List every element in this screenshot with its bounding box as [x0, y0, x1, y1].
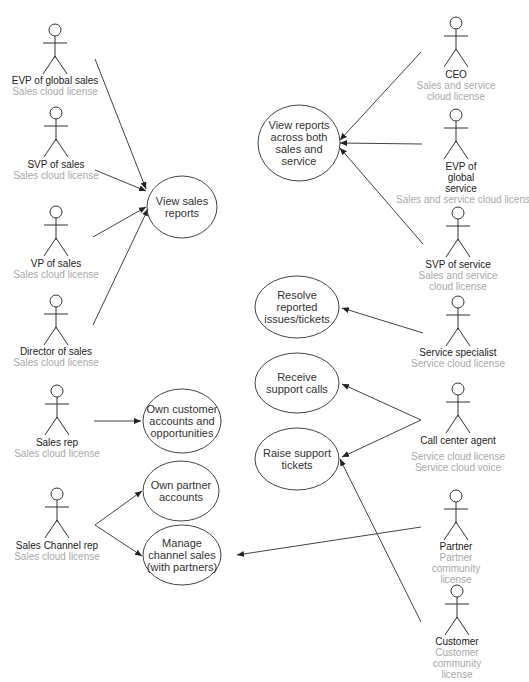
actor-license: Sales and service cloud license: [396, 194, 526, 205]
usecase-own-partner[interactable]: Own partner accounts: [147, 476, 215, 506]
actor-license: Sales cloud license: [7, 551, 107, 562]
assoc-vp-sales: [93, 207, 146, 237]
actor-evp-sales: EVP of global sales Sales cloud license: [5, 75, 105, 97]
actor-figure-customer[interactable]: [445, 585, 469, 635]
actor-license: Sales cloud license: [6, 170, 106, 181]
actor-customer: Customer Customer community license: [407, 636, 507, 680]
actor-figure-svp-sales[interactable]: [44, 107, 68, 157]
actor-call-agent: Call center agent Service cloud license …: [408, 435, 508, 473]
usecase-receive-calls[interactable]: Receive support calls: [260, 366, 334, 400]
usecase-manage-channel[interactable]: Manage channel sales (with partners): [144, 534, 220, 576]
actor-name: Customer: [407, 636, 507, 647]
actor-figure-call-agent[interactable]: [446, 383, 470, 433]
actor-dir-sales: Director of sales Sales cloud license: [6, 346, 106, 368]
usecase-resolve[interactable]: Resolve reported issues/tickets: [258, 286, 336, 328]
actor-name: Sales rep: [7, 437, 107, 448]
actor-figure-partner[interactable]: [444, 490, 468, 540]
actor-license: Service cloud license: [408, 358, 508, 369]
actor-svp-sales: SVP of sales Sales cloud license: [6, 159, 106, 181]
actor-license: Sales and service cloud license: [418, 270, 498, 292]
actor-ceo: CEO Sales and service cloud license: [406, 69, 506, 102]
actor-figure-specialist[interactable]: [446, 296, 470, 346]
actor-figure-dir-sales[interactable]: [44, 295, 68, 345]
actor-license-2: Service cloud voice: [408, 462, 508, 473]
actor-figure-evp-service[interactable]: [444, 109, 468, 159]
actor-svp-service: SVP of service Sales and service cloud l…: [408, 259, 508, 292]
usecase-view-sales[interactable]: View sales reports: [150, 190, 214, 224]
actor-name: Director of sales: [6, 346, 106, 357]
actor-name: CEO: [406, 69, 506, 80]
actor-figure-channel-rep[interactable]: [45, 488, 69, 538]
actor-license: Sales and service cloud license: [416, 80, 496, 102]
actor-license: Sales cloud license: [7, 448, 107, 459]
actor-license: Sales cloud license: [6, 269, 106, 280]
actor-evp-service: EVP of global service Sales and service …: [396, 161, 526, 205]
actor-figure-sales-rep[interactable]: [45, 385, 69, 435]
actor-name: Sales Channel rep: [7, 540, 107, 551]
actor-license: Sales cloud license: [6, 357, 106, 368]
actor-figure-svp-service[interactable]: [446, 207, 470, 257]
actor-figure-evp-sales[interactable]: [43, 24, 67, 74]
usecase-view-both[interactable]: View reports across both sales and servi…: [260, 116, 338, 170]
usecase-raise-tickets[interactable]: Raise support tickets: [258, 442, 336, 476]
assoc-partner: [237, 527, 421, 555]
actor-name: EVP of global service: [431, 161, 491, 194]
actor-specialist: Service specialist Service cloud license: [408, 347, 508, 369]
actor-name: EVP of global sales: [5, 75, 105, 86]
actor-license: Service cloud license: [408, 451, 508, 462]
actor-license: Customer community license: [417, 647, 497, 680]
assoc-specialist: [342, 308, 423, 333]
actor-channel-rep: Sales Channel rep Sales cloud license: [7, 540, 107, 562]
actor-sales-rep: Sales rep Sales cloud license: [7, 437, 107, 459]
actor-license: Partner community license: [416, 552, 496, 585]
actor-figure-ceo[interactable]: [444, 17, 468, 67]
assoc-evp-service: [340, 143, 422, 144]
actor-name: Partner: [406, 541, 506, 552]
actor-vp-sales: VP of sales Sales cloud license: [6, 258, 106, 280]
actor-figure-vp-sales[interactable]: [44, 206, 68, 256]
actor-license: Sales cloud license: [5, 86, 105, 97]
usecase-own-customer[interactable]: Own customer accounts and opportunities: [145, 396, 219, 446]
assoc-channel-partner: [95, 491, 142, 525]
actor-name: SVP of service: [408, 259, 508, 270]
actor-partner: Partner Partner community license: [406, 541, 506, 585]
actor-name: Service specialist: [408, 347, 508, 358]
actor-name: SVP of sales: [6, 159, 106, 170]
assoc-agent-receive: [342, 384, 421, 420]
actor-name: VP of sales: [6, 258, 106, 269]
actor-name: Call center agent: [408, 435, 508, 446]
